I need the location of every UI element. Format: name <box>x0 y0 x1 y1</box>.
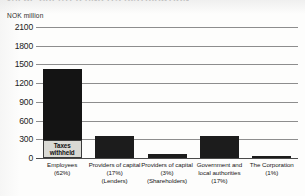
category-label-4-line-2: local authorities <box>190 169 248 177</box>
y-tick-label-900: 900 <box>0 97 33 107</box>
category-label-5-line-2: (1%) <box>243 169 301 177</box>
category-label-3-line-3: (Shareholders) <box>138 177 196 185</box>
chart-title: VALUE CREATED AND ITS DISTRIBUTION <box>6 0 189 1</box>
bar-4 <box>200 136 239 158</box>
category-label-1-line-2: (62%) <box>33 169 91 177</box>
bar-1-segment-remainder <box>43 69 82 139</box>
taxes-withheld-line-1: Taxes <box>44 142 81 149</box>
category-label-4-line-3: (17%) <box>190 177 248 185</box>
category-label-3: Providers of capital(3%)(Shareholders) <box>138 161 196 186</box>
plot-area: Taxeswithheld <box>36 27 298 158</box>
category-label-5: The Corporation(1%) <box>243 161 301 177</box>
category-label-2-line-1: Providers of capital <box>85 161 143 169</box>
category-label-5-line-1: The Corporation <box>243 161 301 169</box>
category-label-1: Employees(62%) <box>33 161 91 177</box>
category-label-3-line-1: Providers of capital <box>138 161 196 169</box>
gridline-1500 <box>36 64 298 65</box>
bar-1: Taxeswithheld <box>43 69 82 158</box>
x-axis-baseline <box>36 158 298 159</box>
y-tick-label-1800: 1800 <box>0 41 33 51</box>
category-label-2-line-2: (17%) <box>85 169 143 177</box>
y-axis-tick-labels: 21001800150012009006003000 <box>0 27 33 158</box>
taxes-withheld-annotation: Taxeswithheld <box>44 142 81 157</box>
gridline-1800 <box>36 46 298 47</box>
y-tick-label-1200: 1200 <box>0 78 33 88</box>
category-label-3-line-2: (3%) <box>138 169 196 177</box>
x-axis-category-labels: Employees(62%)Providers of capital(17%)(… <box>36 161 298 195</box>
y-tick-label-2100: 2100 <box>0 22 33 32</box>
category-label-4-line-1: Government and <box>190 161 248 169</box>
gridline-2100 <box>36 27 298 28</box>
category-label-1-line-1: Employees <box>33 161 91 169</box>
taxes-withheld-line-2: withheld <box>44 149 81 156</box>
bar-3 <box>148 154 187 158</box>
category-label-2: Providers of capital(17%)(Lenders) <box>85 161 143 186</box>
bar-2 <box>95 136 134 158</box>
bar-5 <box>252 156 291 158</box>
y-tick-label-600: 600 <box>0 116 33 126</box>
y-tick-label-0: 0 <box>0 153 33 163</box>
y-tick-label-300: 300 <box>0 134 33 144</box>
y-axis-unit-label: NOK million <box>7 12 43 19</box>
category-label-2-line-3: (Lenders) <box>85 177 143 185</box>
bar-chart: VALUE CREATED AND ITS DISTRIBUTION NOK m… <box>0 0 305 196</box>
y-tick-label-1500: 1500 <box>0 59 33 69</box>
category-label-4: Government andlocal authorities(17%) <box>190 161 248 186</box>
bar-1-segment-taxes-withheld: Taxeswithheld <box>43 140 82 158</box>
